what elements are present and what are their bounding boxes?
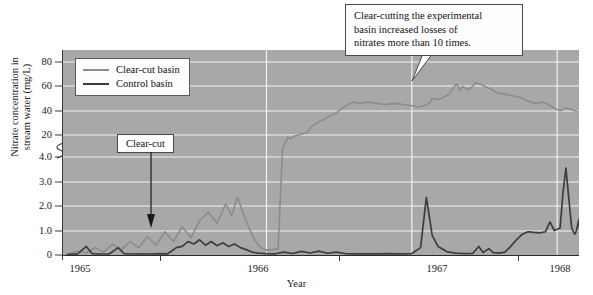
y-tick-label: 80: [42, 57, 53, 67]
callout-line-3: nitrates more than 10 times.: [354, 36, 514, 50]
y-tick-mark: [55, 255, 62, 256]
y-tick-label: 40: [42, 106, 53, 116]
y-tick-mark: [55, 111, 62, 112]
clear-cut-arrow-icon: [142, 152, 160, 228]
nitrate-concentration-chart: Nitrate concentration in stream water (m…: [0, 0, 593, 295]
legend-swatch-clear-cut-basin: [83, 69, 109, 71]
legend-label-control-basin: Control basin: [116, 78, 173, 90]
clear-cut-annotation-box: Clear-cut: [117, 134, 174, 153]
x-tick-mark: [160, 255, 161, 261]
legend-label-clear-cut-basin: Clear-cut basin: [116, 64, 180, 76]
y-tick-label: 0: [47, 250, 52, 260]
y-tick-mark: [55, 206, 62, 207]
x-tick-mark: [518, 255, 519, 261]
legend-item-clear-cut-basin: Clear-cut basin: [83, 63, 180, 77]
x-axis-title: Year: [0, 278, 593, 289]
y-tick-mark: [55, 62, 62, 63]
legend: Clear-cut basin Control basin: [75, 58, 190, 96]
y-tick-mark: [55, 86, 62, 87]
x-tick-mark: [339, 255, 340, 261]
callout-line-2: basin increased losses of: [354, 23, 514, 37]
y-tick-mark: [55, 231, 62, 232]
x-tick-label: 1966: [248, 263, 269, 275]
x-tick-label: 1968: [550, 263, 571, 275]
x-tick-label: 1967: [427, 263, 448, 275]
y-tick-mark: [55, 135, 62, 136]
y-tick-label: 4.0: [39, 152, 52, 162]
x-tick-label: 1965: [70, 263, 91, 275]
legend-swatch-control-basin: [83, 83, 109, 85]
y-tick-label: 20: [42, 130, 53, 140]
y-tick-label: 3.0: [39, 177, 52, 187]
y-tick-label: 2.0: [39, 201, 52, 211]
y-tick-mark: [55, 182, 62, 183]
main-annotation-box: Clear-cutting the experimental basin inc…: [345, 4, 523, 56]
y-axis-tick-group: 806040204.03.02.01.00: [0, 0, 62, 295]
y-tick-label: 1.0: [39, 226, 52, 236]
y-tick-label: 60: [42, 81, 53, 91]
callout-line-1: Clear-cutting the experimental: [354, 9, 514, 23]
legend-item-control-basin: Control basin: [83, 77, 180, 91]
